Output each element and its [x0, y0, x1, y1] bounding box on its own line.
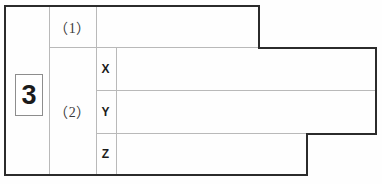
row-marker-y: Y [95, 90, 116, 133]
row-marker-z: Z [95, 133, 116, 175]
answer-area-q2-z[interactable] [116, 133, 306, 175]
sub-question-label-2: （2） [49, 47, 96, 175]
answer-sheet: 3 （1） （2） X Y Z [0, 0, 382, 184]
answer-area-q1[interactable] [96, 6, 256, 47]
question-number-box: 3 [15, 74, 43, 116]
sub-question-label-1: （1） [49, 6, 96, 47]
row-marker-x: X [95, 47, 116, 90]
answer-area-q2-y[interactable] [116, 90, 375, 133]
answer-area-q2-x[interactable] [116, 47, 375, 90]
